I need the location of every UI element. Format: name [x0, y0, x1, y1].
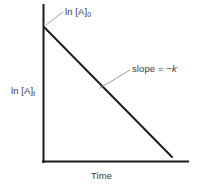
y-axis-label: ln [A]t: [11, 86, 35, 96]
y-axis-label-subscript: t: [33, 90, 35, 97]
intercept-label-subscript: 0: [87, 11, 91, 18]
slope-label: slope = −k: [132, 64, 177, 74]
kinetics-plot-figure: ln [A]0 slope = −k ln [A]t Time: [0, 0, 198, 189]
y-axis-label-text: ln [A]: [11, 85, 33, 96]
rate-constant-symbol: k: [172, 63, 177, 74]
slope-leader-line: [100, 70, 130, 88]
intercept-leader-line: [46, 12, 63, 25]
intercept-label: ln [A]0: [65, 7, 91, 17]
intercept-label-text: ln [A]: [65, 6, 87, 17]
slope-label-text: slope = −: [132, 63, 172, 74]
data-line: [44, 27, 172, 157]
x-axis-label: Time: [91, 171, 112, 181]
